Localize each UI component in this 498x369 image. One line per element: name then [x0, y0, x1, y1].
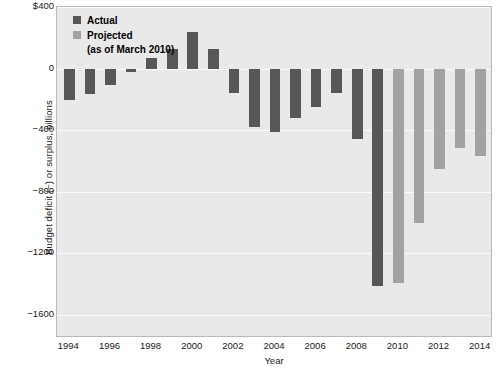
bar-projected-2013 [455, 69, 466, 149]
x-axis-tick-labels: 1994199619982000200220042006200820102012… [56, 340, 492, 354]
bar-projected-2010 [393, 69, 404, 283]
bar-actual-1996 [105, 69, 116, 85]
gridline [57, 253, 491, 254]
y-axis-tick-label: −400 [8, 124, 54, 134]
y-axis-tick-labels: $4000−400−800−1200−1600 [0, 0, 54, 369]
gridline [57, 192, 491, 193]
x-axis-tick-label: 2012 [419, 340, 459, 351]
x-axis-tick-label: 2004 [254, 340, 294, 351]
plot-area: Actual Projected (as of March 2010) [56, 6, 492, 337]
y-axis-tick-label: −800 [8, 186, 54, 196]
gridline [57, 7, 491, 8]
bar-actual-2002 [229, 69, 240, 93]
x-axis-tick-label: 2000 [172, 340, 212, 351]
bar-actual-2006 [311, 69, 322, 107]
bar-actual-2000 [187, 32, 198, 68]
bar-actual-1994 [64, 69, 75, 100]
y-axis-tick-label: −1600 [8, 309, 54, 319]
x-axis-tick-label: 2008 [336, 340, 376, 351]
budget-deficit-bar-chart: Budget deficit (−) or surplus, billions … [0, 0, 498, 369]
x-axis-tick-label: 2002 [213, 340, 253, 351]
bar-actual-2004 [270, 69, 281, 133]
bar-projected-2014 [475, 69, 486, 156]
x-axis-tick-label: 1998 [131, 340, 171, 351]
chart-legend: Actual Projected (as of March 2010) [73, 13, 174, 57]
legend-swatch-projected-icon [73, 31, 81, 39]
bar-actual-2005 [290, 69, 301, 118]
y-axis-tick-label: 0 [8, 63, 54, 73]
bar-actual-2007 [331, 69, 342, 94]
legend-label-projected: Projected [87, 30, 133, 41]
legend-swatch-actual-icon [73, 16, 81, 24]
legend-note: (as of March 2010) [87, 43, 174, 57]
bar-actual-1998 [146, 58, 157, 69]
bar-actual-1997 [126, 69, 137, 72]
x-axis-tick-label: 1994 [48, 340, 88, 351]
legend-label-actual: Actual [87, 15, 118, 26]
legend-item-actual: Actual [73, 13, 174, 27]
bar-actual-2008 [352, 69, 363, 140]
x-axis-tick-label: 2010 [377, 340, 417, 351]
bar-actual-2003 [249, 69, 260, 127]
y-axis-tick-label: −1200 [8, 247, 54, 257]
bar-actual-2001 [208, 49, 219, 69]
legend-item-projected: Projected [73, 28, 174, 42]
gridline [57, 315, 491, 316]
x-axis-title: Year [56, 355, 492, 366]
bar-actual-1995 [85, 69, 96, 94]
x-axis-tick-label: 2006 [295, 340, 335, 351]
y-axis-tick-label: $400 [8, 1, 54, 11]
bar-projected-2011 [414, 69, 425, 223]
bar-actual-2009 [372, 69, 383, 287]
x-axis-tick-label: 2014 [460, 340, 498, 351]
bar-projected-2012 [434, 69, 445, 169]
x-axis-tick-label: 1996 [89, 340, 129, 351]
